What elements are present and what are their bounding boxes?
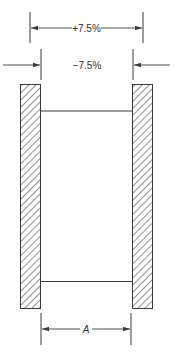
- tolerance-diagram: +7.5% −7.5% A: [0, 0, 177, 356]
- nominal-dimension-label: A: [82, 324, 90, 335]
- nominal-dimension: A: [41, 313, 131, 345]
- inner-dimension-label: −7.5%: [73, 60, 102, 71]
- outer-dimension: +7.5%: [30, 12, 143, 43]
- outer-dimension-label: +7.5%: [72, 23, 101, 34]
- inner-dimension: −7.5%: [3, 49, 170, 80]
- hatched-wall-right: [133, 85, 153, 309]
- hatched-wall-left: [21, 85, 41, 309]
